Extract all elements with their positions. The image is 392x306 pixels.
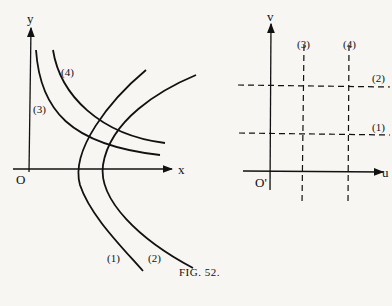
- u-axis-label: u: [382, 165, 389, 180]
- figure-canvas: y x O (3) (4) (1) (2) v u O' (3) (4) (2)…: [0, 0, 392, 306]
- line-2-label: (2): [372, 72, 385, 85]
- line-3: [302, 45, 304, 205]
- x-axis-label: x: [178, 162, 185, 177]
- v-axis: [270, 24, 271, 190]
- figure-caption: FIG. 52.: [179, 266, 220, 278]
- y-axis: [29, 28, 31, 172]
- y-axis-label: y: [27, 11, 34, 26]
- line-1-label: (1): [372, 121, 385, 134]
- curve-1-label: (1): [107, 252, 120, 265]
- left-plot: [13, 28, 196, 271]
- origin-prime-label: O': [255, 175, 267, 190]
- line-2: [238, 85, 390, 87]
- origin-label: O: [16, 172, 25, 187]
- line-4-label: (4): [343, 38, 356, 51]
- curve-1: [78, 70, 146, 271]
- curve-2-label: (2): [148, 252, 161, 265]
- curve-4-label: (4): [61, 66, 74, 79]
- v-axis-label: v: [267, 9, 274, 24]
- line-3-label: (3): [297, 38, 310, 51]
- line-4: [348, 45, 349, 205]
- curve-3-label: (3): [33, 103, 46, 116]
- line-1: [239, 133, 390, 135]
- u-axis: [243, 171, 383, 172]
- curve-4: [53, 50, 165, 143]
